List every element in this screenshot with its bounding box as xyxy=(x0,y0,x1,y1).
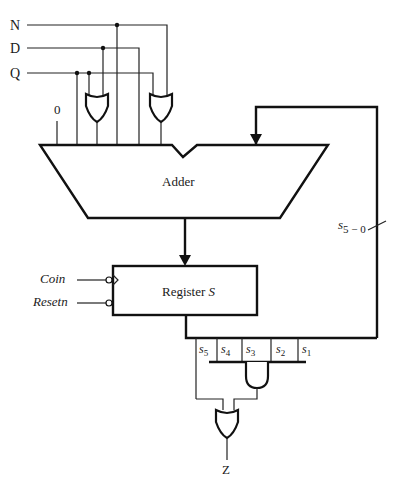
circuit-diagram: N D Q 0 Adder s5 − xyxy=(0,0,397,490)
wire-d xyxy=(27,46,139,145)
coin-label: Coin xyxy=(40,271,65,286)
bit-label-s1: s1 xyxy=(302,342,311,358)
input-label-q: Q xyxy=(10,66,20,81)
resetn-input xyxy=(77,300,112,306)
input-label-d: D xyxy=(10,41,20,56)
input-label-n: N xyxy=(10,18,20,33)
bus-label: s5 − 0 xyxy=(338,217,366,235)
output-label-z: Z xyxy=(222,462,230,477)
or-gate-2 xyxy=(150,94,172,145)
or-gate-output xyxy=(196,399,238,460)
register-output-bus xyxy=(186,315,377,338)
bit-label-s4: s4 xyxy=(221,342,231,358)
bit-label-s3: s3 xyxy=(246,342,256,358)
junction-dot xyxy=(115,23,119,27)
bit-label-s2: s2 xyxy=(276,342,285,358)
or-gate-1 xyxy=(86,94,108,145)
adder-to-register-wire xyxy=(179,218,191,266)
junction-dot xyxy=(101,46,105,50)
junction-dot xyxy=(87,71,91,75)
adder-label: Adder xyxy=(162,174,195,189)
junction-dot xyxy=(75,71,79,75)
constant-zero-label: 0 xyxy=(54,102,61,117)
resetn-label: Resetn xyxy=(32,294,68,309)
and-gate xyxy=(234,362,268,410)
bit-label-s5: s5 xyxy=(199,342,209,358)
register-label: Register S xyxy=(162,284,216,299)
